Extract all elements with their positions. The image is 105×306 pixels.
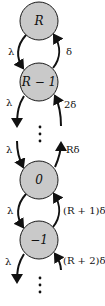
transition-Rm1-down-arrow xyxy=(17,96,24,126)
rate-label-R-plus-1-delta: (R + 1)δ xyxy=(63,205,105,216)
rate-label-R-plus-2-delta: (R + 2)δ xyxy=(63,255,105,266)
transition-m1-down-arrow xyxy=(17,254,24,282)
transition-R-to-Rm1-arrow xyxy=(18,35,26,68)
state-node-0: 0 xyxy=(20,161,58,199)
transition-into-m1-arrow xyxy=(55,254,61,270)
state-node-R-minus-1: R − 1 xyxy=(20,63,58,101)
rate-label-lambda-3: λ xyxy=(6,144,13,155)
transition-into-Rm1-arrow xyxy=(55,96,61,126)
ellipsis-upper xyxy=(39,126,42,143)
rate-label-delta-1: δ xyxy=(66,46,72,57)
transition-from-0-up-arrow xyxy=(55,143,61,167)
transition-0-to-m1-arrow xyxy=(18,194,26,227)
rate-label-lambda-1: λ xyxy=(8,46,15,57)
rate-label-lambda-4: λ xyxy=(7,205,14,216)
rate-label-R-delta: Rδ xyxy=(66,144,80,155)
svg-text:R: R xyxy=(33,14,43,28)
state-node-minus-1: −1 xyxy=(20,221,58,259)
transition-Rm1-to-R-arrow xyxy=(53,35,59,68)
transition-m1-to-0-arrow xyxy=(53,194,59,227)
svg-text:0: 0 xyxy=(35,173,43,187)
markov-chain-diagram: R λ δ R − 1 λ 2δ λ Rδ 0 λ (R + 1)δ −1 λ … xyxy=(0,0,105,306)
svg-text:−1: −1 xyxy=(30,233,48,247)
state-node-R: R xyxy=(20,2,58,40)
rate-label-lambda-2: λ xyxy=(6,97,13,108)
transition-into-0-arrow xyxy=(17,141,23,167)
ellipsis-lower xyxy=(39,277,42,294)
rate-label-lambda-5: λ xyxy=(5,256,12,267)
rate-label-2delta: 2δ xyxy=(64,99,76,110)
svg-text:R − 1: R − 1 xyxy=(21,75,56,89)
